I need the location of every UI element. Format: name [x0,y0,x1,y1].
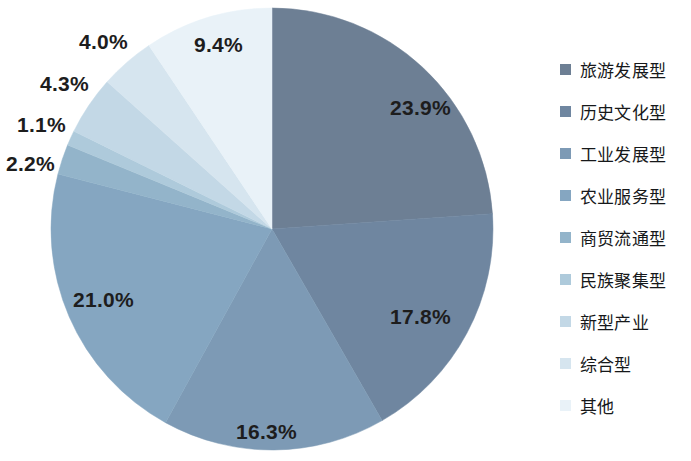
legend-swatch-icon [560,274,571,285]
pie-data-label: 16.3% [236,420,297,444]
legend-swatch-icon [560,148,571,159]
pie-data-label: 23.9% [390,96,451,120]
pie-data-label: 1.1% [17,113,66,137]
legend-item-label: 新型产业 [580,309,649,334]
pie-data-label: 4.0% [79,30,128,54]
legend-swatch-icon [560,64,571,75]
pie-data-label: 9.4% [194,33,243,57]
legend-item-label: 商贸流通型 [580,225,666,250]
pie-data-label: 21.0% [73,288,134,312]
chart-legend: 旅游发展型历史文化型工业发展型农业服务型商贸流通型民族聚集型新型产业综合型其他 [560,48,691,426]
legend-item[interactable]: 旅游发展型 [560,48,691,90]
legend-item[interactable]: 新型产业 [560,300,691,342]
legend-swatch-icon [560,190,571,201]
legend-item[interactable]: 历史文化型 [560,90,691,132]
pie-data-label: 17.8% [390,305,451,329]
pie-data-label: 2.2% [6,152,55,176]
pie-slice-group [51,8,493,450]
legend-item-label: 综合型 [580,351,632,376]
legend-item[interactable]: 综合型 [560,342,691,384]
legend-item-label: 工业发展型 [580,141,666,166]
legend-item-label: 农业服务型 [580,183,666,208]
legend-item[interactable]: 农业服务型 [560,174,691,216]
legend-swatch-icon [560,232,571,243]
legend-item-label: 旅游发展型 [580,57,666,82]
pie-chart-figure: 23.9%17.8%16.3%21.0%2.2%1.1%4.3%4.0%9.4%… [0,0,691,461]
pie-data-label: 4.3% [40,72,89,96]
legend-item-label: 民族聚集型 [580,267,666,292]
legend-item[interactable]: 其他 [560,384,691,426]
legend-swatch-icon [560,106,571,117]
legend-item[interactable]: 工业发展型 [560,132,691,174]
legend-swatch-icon [560,316,571,327]
legend-swatch-icon [560,358,571,369]
legend-item-label: 历史文化型 [580,99,666,124]
legend-swatch-icon [560,400,571,411]
legend-item[interactable]: 民族聚集型 [560,258,691,300]
legend-item[interactable]: 商贸流通型 [560,216,691,258]
legend-item-label: 其他 [580,393,614,418]
pie-slice[interactable] [272,8,492,229]
